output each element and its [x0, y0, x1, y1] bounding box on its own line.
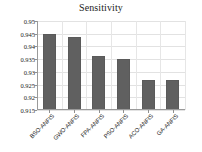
x-tick-label: PSO-ANFIS	[103, 113, 129, 139]
x-axis: BSO-ANFISGWO-ANFISFPA-ANFISPSO-ANFISACO-…	[37, 110, 202, 152]
chart-container: Sensitivity 0.9150.920.9250.930.9350.940…	[0, 0, 202, 152]
y-axis: 0.9150.920.9250.930.9350.940.9450.95	[0, 21, 35, 110]
y-tick-label: 0.925	[1, 81, 35, 88]
y-tick-label: 0.93	[1, 68, 35, 75]
y-tick-label: 0.945	[1, 30, 35, 37]
y-tick-label: 0.94	[1, 43, 35, 50]
y-tick-label: 0.92	[1, 94, 35, 101]
x-tick-label: ACO-ANFIS	[128, 113, 155, 140]
y-tick-label: 0.915	[1, 107, 35, 114]
y-tick-label: 0.935	[1, 56, 35, 63]
x-tick-label: FPA-ANFIS	[79, 113, 104, 138]
plot-area	[37, 21, 185, 110]
chart-title: Sensitivity	[0, 2, 202, 13]
x-tick-label: GWO-ANFIS	[52, 113, 80, 141]
gridline-vertical	[185, 21, 186, 110]
plot-frame	[37, 21, 185, 110]
x-tick-label: GA-ANFIS	[155, 113, 179, 137]
y-tick-label: 0.95	[1, 18, 35, 25]
